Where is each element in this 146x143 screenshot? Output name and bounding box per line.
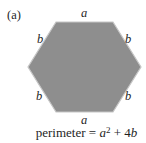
formula-operator: + xyxy=(110,125,124,140)
side-label-b-bottom-left: b xyxy=(32,89,46,103)
side-label-b-top-left: b xyxy=(33,32,47,46)
perimeter-formula: perimeter = a2 + 4b xyxy=(27,125,146,140)
figure-panel: (a) a b b b b a perimeter = a2 + 4b xyxy=(0,0,146,143)
hexagon-figure xyxy=(0,0,146,143)
side-label-a-top: a xyxy=(77,6,91,20)
formula-prefix: perimeter = xyxy=(36,125,100,140)
formula-variable-b: b xyxy=(131,125,138,140)
side-label-b-bottom-right: b xyxy=(121,89,135,103)
side-label-b-top-right: b xyxy=(121,32,135,46)
